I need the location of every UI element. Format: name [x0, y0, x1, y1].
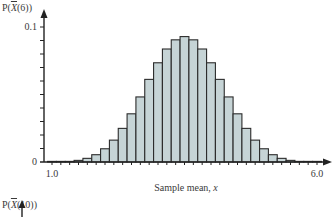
y-axis-arrow-icon: [41, 9, 48, 18]
histogram-bar: [136, 97, 145, 162]
histogram-bar: [242, 128, 251, 162]
histogram-bar: [162, 49, 171, 162]
histogram-bars: [48, 37, 322, 162]
histogram-bar: [154, 63, 163, 162]
histogram-bar: [109, 140, 118, 162]
histogram-chart: 0.1 0 1.0 6.0 Sample mean, x: [0, 0, 336, 217]
histogram-bar: [207, 63, 216, 162]
histogram-bar: [118, 128, 127, 162]
histogram-bar: [189, 40, 198, 162]
histogram-bar: [224, 97, 233, 162]
histogram-bar: [233, 114, 242, 162]
y-tick-label-max: 0.1: [25, 21, 38, 32]
x-axis-arrow-icon: [323, 159, 332, 166]
histogram-bar: [268, 155, 277, 162]
histogram-bar: [171, 40, 180, 162]
x-axis-label: Sample mean, x: [154, 182, 218, 193]
x-tick-label-max: 6.0: [311, 168, 324, 179]
x-tick-label-min: 1.0: [46, 168, 59, 179]
histogram-bar: [92, 155, 101, 162]
histogram-bar: [127, 114, 136, 162]
histogram-bar: [251, 140, 260, 162]
x-axis-label-variable: x: [212, 182, 218, 193]
next-chart-y-axis-arrow-icon: [19, 200, 26, 208]
histogram-bar: [260, 149, 269, 162]
histogram-bar: [145, 79, 154, 162]
x-axis-label-text: Sample mean,: [154, 182, 213, 193]
histogram-bar: [198, 49, 207, 162]
y-tick-label-zero: 0: [32, 156, 37, 167]
histogram-bar: [101, 149, 110, 162]
histogram-bar: [180, 37, 189, 162]
histogram-bar: [215, 79, 224, 162]
